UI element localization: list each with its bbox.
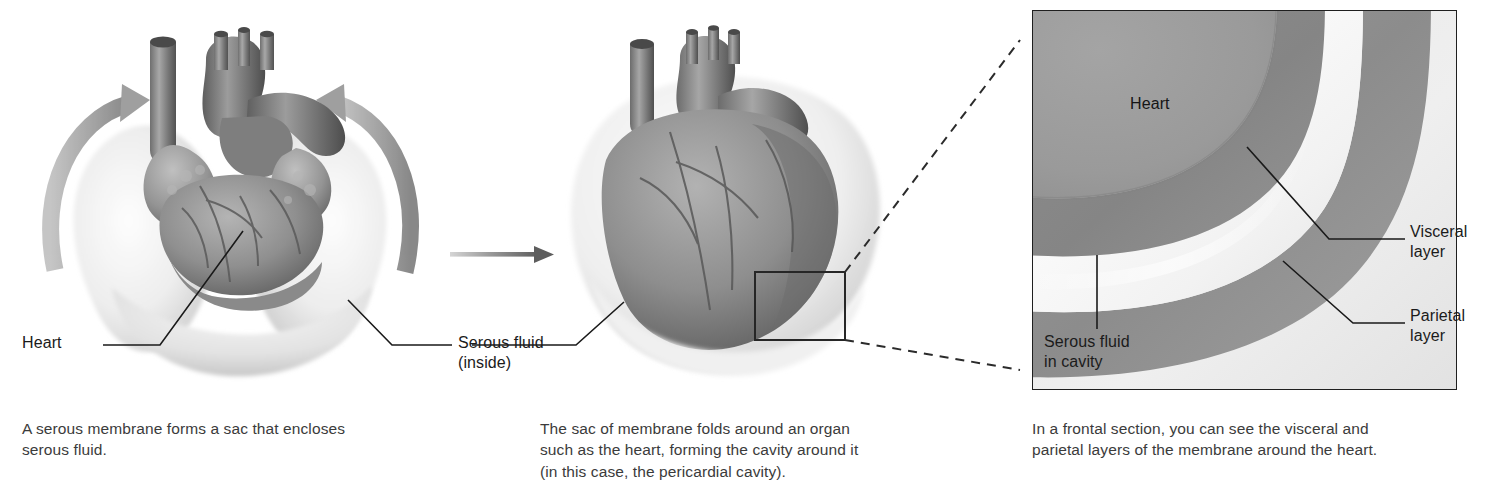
panel-open-sac: Heart Serous fluid (inside) A serous mem… [0,0,520,500]
magnification-dashed-leaders [845,40,1020,370]
label-heart-inset: Heart [1130,94,1170,114]
serous-sac-rim [590,278,864,376]
serous-sac-front-flap [112,286,372,376]
serous-sac-right [243,125,386,352]
label-serous-fluid-in-cavity: Serous fluid in cavity [1044,332,1130,371]
serous-fluid-leader-left [348,300,452,345]
serous-sac-envelope [571,77,880,372]
epicardial-fat [167,165,316,204]
caption-panel-open-sac: A serous membrane forms a sac that enclo… [22,418,345,461]
serous-membrane-figure: Heart Serous fluid (inside) A serous mem… [0,0,1497,500]
caption-panel-frontal-section: In a frontal section, you can see the vi… [1032,418,1377,461]
coronary-vessels-2 [640,132,793,310]
coronary-vessels [182,186,300,282]
label-visceral-layer: Visceral layer [1410,222,1467,261]
magnification-source-box [755,272,845,340]
heart-organ-enclosed [602,25,839,350]
panel-frontal-section: Heart Visceral layer Parietal layer Sero… [1020,0,1497,500]
heart-in-open-serous-sac-artwork [0,0,520,410]
serous-sac-left [74,125,219,352]
heart-organ [144,27,346,311]
fold-arrows [51,84,411,272]
label-heart-panel1: Heart [22,333,62,353]
panel-closed-sac: The sac of membrane folds around an orga… [520,0,1020,500]
heart-leader [103,231,243,345]
panel1-leader-lines [103,231,452,345]
caption-panel-closed-sac: The sac of membrane folds around an orga… [540,418,858,482]
heart-enclosed-artwork [520,0,1020,410]
label-parietal-layer: Parietal layer [1410,306,1465,345]
